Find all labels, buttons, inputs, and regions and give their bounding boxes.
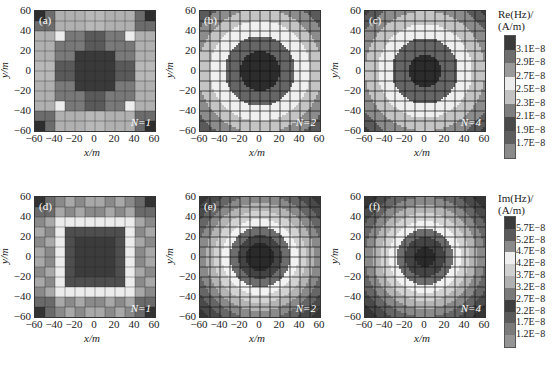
y-tick-label: 0	[337, 251, 361, 262]
colorbar-level-label: 2.2E−8	[516, 306, 545, 316]
colorbar-im-title-line1: Im(Hz)/	[498, 192, 533, 204]
panel-label-d: (d)	[39, 200, 52, 212]
colorbar-level-label: 4.7E−8	[516, 246, 545, 256]
x-tick-label: 60	[142, 319, 166, 330]
plot-area-a: (a)N=1	[34, 10, 156, 132]
y-tick-label: 0	[172, 65, 196, 76]
y-tick-label: −20	[337, 271, 361, 282]
panel-d: (d)N=16040200−20−40−60−60−40−200204060x/…	[0, 186, 170, 372]
colorbar-re-scale	[504, 35, 516, 159]
colorbar-level-label: 3.7E−8	[516, 270, 545, 280]
colorbar-level-label: 4.2E−8	[516, 258, 545, 268]
colorbar-swatch	[505, 229, 515, 241]
colorbar-swatch	[505, 50, 515, 64]
colorbar-swatch	[505, 323, 515, 335]
y-tick-label: 0	[7, 251, 31, 262]
y-axis-label: y/m	[163, 62, 175, 78]
x-axis-label: x/m	[84, 332, 100, 344]
plot-area-d: (d)N=1	[34, 196, 156, 318]
annotation-c: N=4	[461, 116, 481, 128]
plot-area-e: (e)N=2	[199, 196, 321, 318]
y-tick-label: 60	[172, 191, 196, 202]
annotation-d: N=1	[131, 302, 151, 314]
colorbar-swatch	[505, 131, 515, 145]
colorbar-swatch	[505, 252, 515, 264]
y-tick-label: −20	[172, 85, 196, 96]
colorbar-re-title: Re(Hz)/ (A/m)	[498, 8, 533, 32]
colorbar-level-label: 5.7E−8	[516, 223, 545, 233]
plot-area-f: (f)N=4	[364, 196, 486, 318]
x-tick-label: 60	[472, 319, 496, 330]
y-tick-label: −40	[172, 291, 196, 302]
y-tick-label: 0	[7, 65, 31, 76]
y-tick-label: −20	[337, 85, 361, 96]
y-tick-label: 60	[337, 191, 361, 202]
colorbar-level-label: 2.1E−8	[516, 111, 545, 121]
annotation-a: N=1	[131, 116, 151, 128]
heatmap-a	[35, 11, 155, 131]
panel-f: (f)N=46040200−20−40−60−60−40−200204060x/…	[330, 186, 500, 372]
y-tick-label: 20	[7, 45, 31, 56]
heatmap-b	[200, 11, 320, 131]
y-tick-label: 20	[337, 231, 361, 242]
heatmap-f	[365, 197, 485, 317]
colorbar-im: Im(Hz)/ (A/m) 5.7E−85.2E−84.7E−84.2E−83.…	[496, 186, 553, 372]
y-tick-label: 40	[337, 25, 361, 36]
y-tick-label: −40	[172, 105, 196, 116]
y-tick-label: 0	[337, 65, 361, 76]
x-tick-label: 60	[472, 133, 496, 144]
panel-label-c: (c)	[369, 14, 381, 26]
colorbar-level-label: 1.2E−8	[516, 329, 545, 339]
y-tick-label: 20	[172, 45, 196, 56]
colorbar-re: Re(Hz)/ (A/m) 3.1E−82.9E−82.7E−82.5E−82.…	[496, 0, 553, 186]
colorbar-swatch	[505, 104, 515, 118]
x-tick-label: 60	[307, 319, 331, 330]
colorbar-swatch	[505, 300, 515, 312]
y-tick-label: 60	[172, 5, 196, 16]
y-tick-label: −20	[172, 271, 196, 282]
colorbar-re-title-line2: (A/m)	[498, 20, 533, 32]
panel-b: (b)N=26040200−20−40−60−60−40−200204060x/…	[165, 0, 335, 186]
colorbar-level-label: 5.2E−8	[516, 235, 545, 245]
y-tick-label: −40	[337, 291, 361, 302]
y-tick-label: −40	[7, 105, 31, 116]
y-axis-label: y/m	[0, 62, 10, 78]
panel-label-a: (a)	[39, 14, 51, 26]
colorbar-level-label: 2.9E−8	[516, 57, 545, 67]
y-axis-label: y/m	[328, 62, 340, 78]
colorbar-swatch	[505, 77, 515, 91]
colorbar-level-label: 2.3E−8	[516, 98, 545, 108]
heatmap-e	[200, 197, 320, 317]
y-tick-label: 40	[172, 25, 196, 36]
panel-label-b: (b)	[204, 14, 217, 26]
y-tick-label: 20	[337, 45, 361, 56]
x-axis-label: x/m	[249, 332, 265, 344]
colorbar-im-scale	[504, 216, 516, 348]
y-tick-label: 60	[337, 5, 361, 16]
colorbar-swatch	[505, 144, 515, 158]
x-tick-label: 60	[307, 133, 331, 144]
panel-c: (c)N=46040200−20−40−60−60−40−200204060x/…	[330, 0, 500, 186]
annotation-f: N=4	[461, 302, 481, 314]
y-tick-label: −40	[337, 105, 361, 116]
colorbar-level-label: 2.7E−8	[516, 294, 545, 304]
colorbar-level-label: 2.7E−8	[516, 71, 545, 81]
colorbar-swatch	[505, 90, 515, 104]
colorbar-swatch	[505, 217, 515, 229]
colorbar-swatch	[505, 312, 515, 324]
colorbar-swatch	[505, 288, 515, 300]
x-tick-label: 60	[142, 133, 166, 144]
y-tick-label: −40	[7, 291, 31, 302]
y-tick-label: 0	[172, 251, 196, 262]
y-tick-label: 40	[7, 25, 31, 36]
x-axis-label: x/m	[249, 146, 265, 158]
colorbar-swatch	[505, 36, 515, 50]
y-tick-label: 60	[7, 191, 31, 202]
x-axis-label: x/m	[84, 146, 100, 158]
heatmap-c	[365, 11, 485, 131]
y-tick-label: 20	[172, 231, 196, 242]
colorbar-im-title-line2: (A/m)	[498, 204, 533, 216]
plot-area-c: (c)N=4	[364, 10, 486, 132]
annotation-b: N=2	[296, 116, 316, 128]
annotation-e: N=2	[296, 302, 316, 314]
